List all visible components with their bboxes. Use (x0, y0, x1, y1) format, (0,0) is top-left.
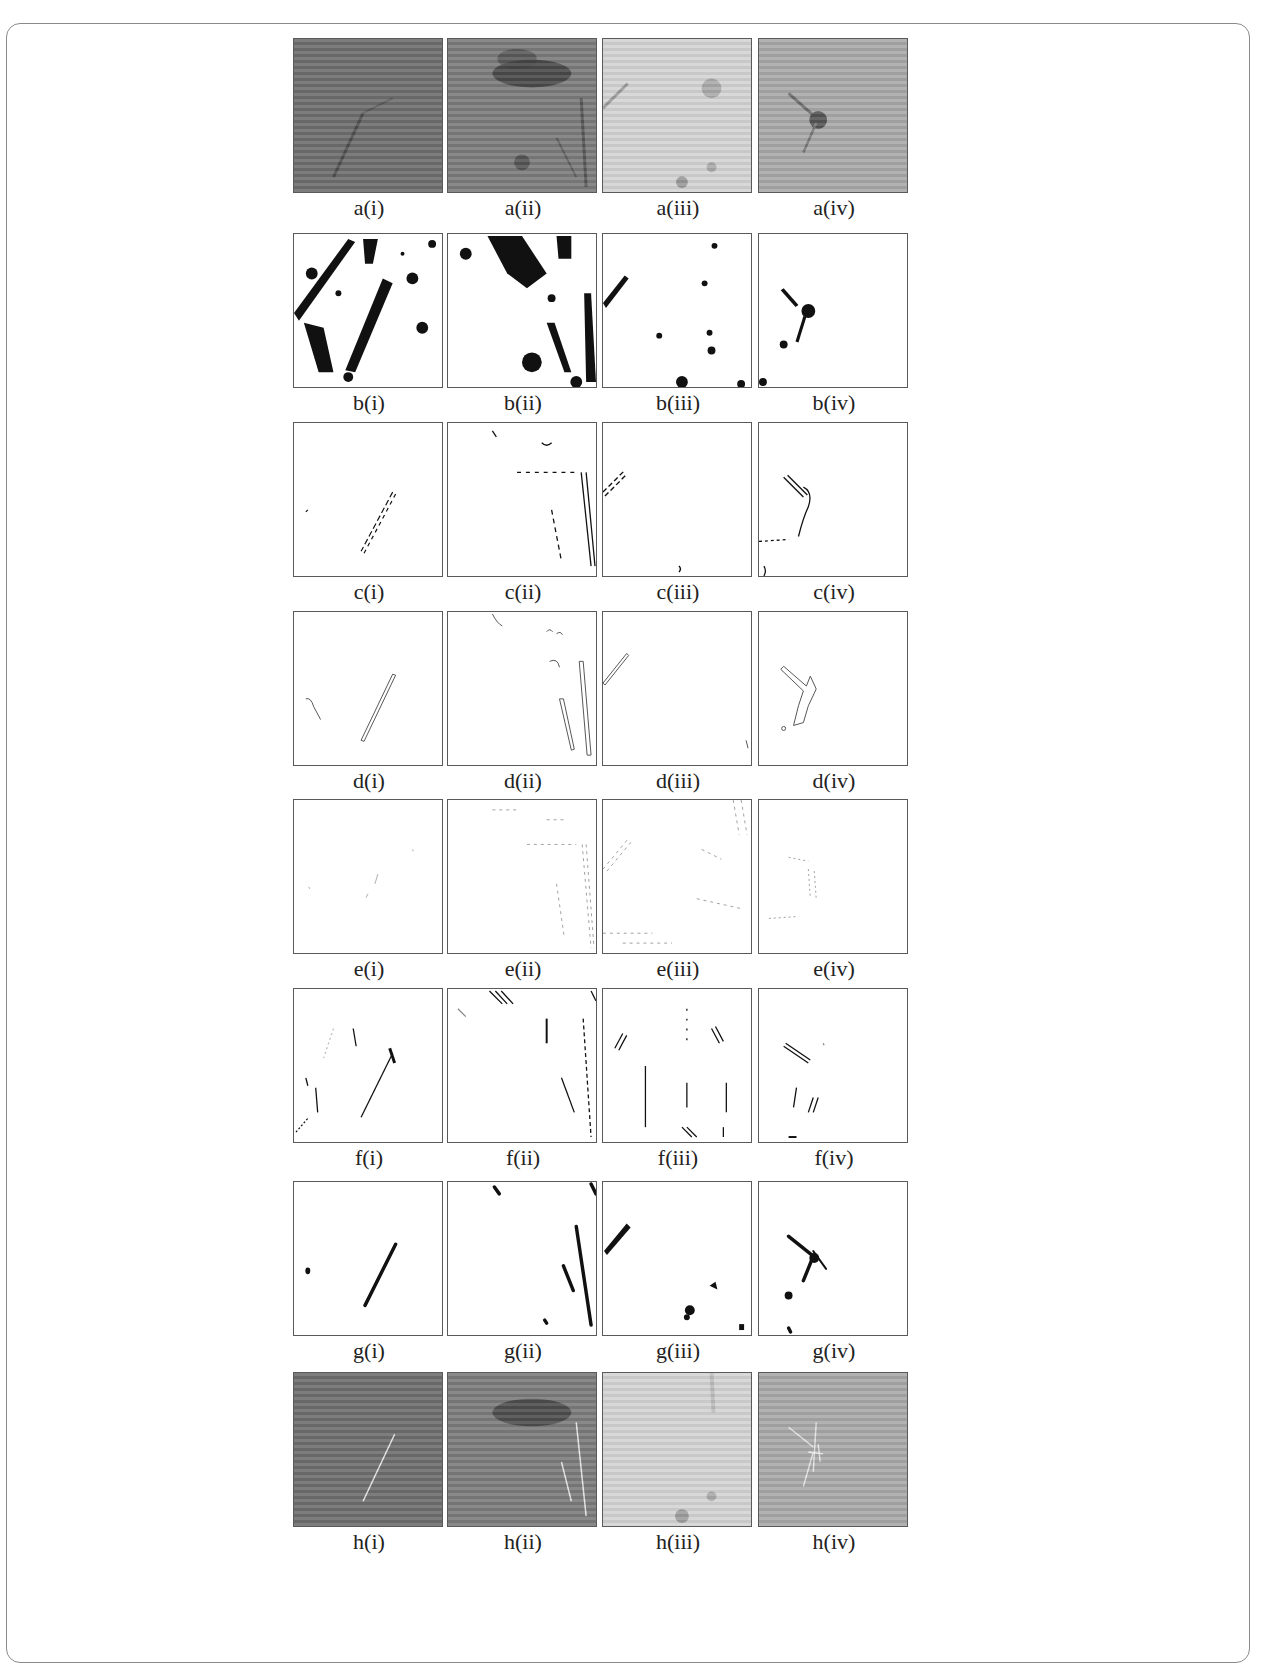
panel-c-i: c(i) (293, 422, 445, 608)
row-h: h(i) h(ii) h(iii) h(iv) (293, 1372, 913, 1562)
label-c-ii: c(ii) (447, 580, 599, 604)
image-b-iii (602, 233, 752, 388)
label-b-i: b(i) (293, 391, 445, 415)
image-b-i (293, 233, 443, 388)
label-a-iv: a(iv) (758, 196, 910, 220)
panel-d-i: d(i) (293, 611, 445, 797)
label-e-i: e(i) (293, 957, 445, 981)
panel-g-ii: g(ii) (447, 1181, 599, 1367)
panel-b-i: b(i) (293, 233, 445, 419)
label-g-iii: g(iii) (602, 1339, 754, 1363)
label-a-iii: a(iii) (602, 196, 754, 220)
label-c-i: c(i) (293, 580, 445, 604)
label-b-ii: b(ii) (447, 391, 599, 415)
panel-e-iii: e(iii) (602, 799, 754, 985)
row-e: e(i) e(ii) e(iii) e(iv) (293, 799, 913, 989)
image-g-iv (758, 1181, 908, 1336)
row-c: c(i) c(ii) c(iii) c(iv) (293, 422, 913, 612)
panel-f-iv: f(iv) (758, 988, 910, 1174)
label-g-iv: g(iv) (758, 1339, 910, 1363)
image-g-i (293, 1181, 443, 1336)
panel-c-iii: c(iii) (602, 422, 754, 608)
image-a-i (293, 38, 443, 193)
image-c-i (293, 422, 443, 577)
row-d: d(i) d(ii) d(iii) d(iv) (293, 611, 913, 801)
image-d-ii (447, 611, 597, 766)
label-c-iii: c(iii) (602, 580, 754, 604)
panel-e-i: e(i) (293, 799, 445, 985)
panel-a-i: a(i) (293, 38, 445, 224)
label-a-ii: a(ii) (447, 196, 599, 220)
image-h-iv (758, 1372, 908, 1527)
panel-g-iii: g(iii) (602, 1181, 754, 1367)
label-e-iv: e(iv) (758, 957, 910, 981)
panel-g-i: g(i) (293, 1181, 445, 1367)
label-g-i: g(i) (293, 1339, 445, 1363)
panel-c-iv: c(iv) (758, 422, 910, 608)
label-h-iii: h(iii) (602, 1530, 754, 1554)
label-f-ii: f(ii) (447, 1146, 599, 1170)
image-d-iii (602, 611, 752, 766)
image-f-iii (602, 988, 752, 1143)
panel-e-ii: e(ii) (447, 799, 599, 985)
panel-d-iv: d(iv) (758, 611, 910, 797)
label-e-ii: e(ii) (447, 957, 599, 981)
image-a-iv (758, 38, 908, 193)
image-d-i (293, 611, 443, 766)
label-f-iii: f(iii) (602, 1146, 754, 1170)
label-d-i: d(i) (293, 769, 445, 793)
panel-b-ii: b(ii) (447, 233, 599, 419)
image-f-i (293, 988, 443, 1143)
panel-d-ii: d(ii) (447, 611, 599, 797)
panel-f-ii: f(ii) (447, 988, 599, 1174)
panel-b-iv: b(iv) (758, 233, 910, 419)
image-e-iii (602, 799, 752, 954)
label-b-iv: b(iv) (758, 391, 910, 415)
panel-a-ii: a(ii) (447, 38, 599, 224)
image-c-iii (602, 422, 752, 577)
label-a-i: a(i) (293, 196, 445, 220)
image-g-ii (447, 1181, 597, 1336)
panel-f-iii: f(iii) (602, 988, 754, 1174)
label-d-ii: d(ii) (447, 769, 599, 793)
panel-g-iv: g(iv) (758, 1181, 910, 1367)
image-f-ii (447, 988, 597, 1143)
label-g-ii: g(ii) (447, 1339, 599, 1363)
image-h-ii (447, 1372, 597, 1527)
image-e-iv (758, 799, 908, 954)
image-e-i (293, 799, 443, 954)
panel-h-ii: h(ii) (447, 1372, 599, 1558)
image-b-iv (758, 233, 908, 388)
image-b-ii (447, 233, 597, 388)
panel-a-iii: a(iii) (602, 38, 754, 224)
panel-b-iii: b(iii) (602, 233, 754, 419)
image-a-ii (447, 38, 597, 193)
image-a-iii (602, 38, 752, 193)
row-a: a(i) a(ii) a(iii) a(iv) (293, 38, 913, 228)
label-h-ii: h(ii) (447, 1530, 599, 1554)
image-g-iii (602, 1181, 752, 1336)
row-g: g(i) g(ii) g(iii) g(iv) (293, 1181, 913, 1371)
image-d-iv (758, 611, 908, 766)
panel-a-iv: a(iv) (758, 38, 910, 224)
label-f-iv: f(iv) (758, 1146, 910, 1170)
label-h-i: h(i) (293, 1530, 445, 1554)
label-d-iii: d(iii) (602, 769, 754, 793)
image-c-ii (447, 422, 597, 577)
label-b-iii: b(iii) (602, 391, 754, 415)
panel-d-iii: d(iii) (602, 611, 754, 797)
label-c-iv: c(iv) (758, 580, 910, 604)
label-f-i: f(i) (293, 1146, 445, 1170)
panel-c-ii: c(ii) (447, 422, 599, 608)
panel-h-i: h(i) (293, 1372, 445, 1558)
image-f-iv (758, 988, 908, 1143)
panel-h-iii: h(iii) (602, 1372, 754, 1558)
panel-h-iv: h(iv) (758, 1372, 910, 1558)
image-h-iii (602, 1372, 752, 1527)
image-e-ii (447, 799, 597, 954)
label-h-iv: h(iv) (758, 1530, 910, 1554)
label-e-iii: e(iii) (602, 957, 754, 981)
image-c-iv (758, 422, 908, 577)
label-d-iv: d(iv) (758, 769, 910, 793)
panel-e-iv: e(iv) (758, 799, 910, 985)
